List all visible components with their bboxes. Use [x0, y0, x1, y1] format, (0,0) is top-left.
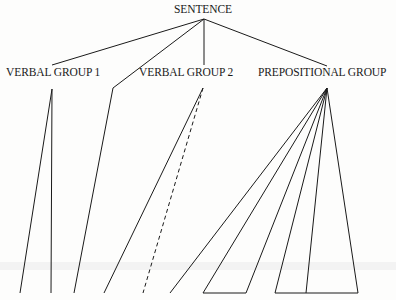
node-verbal-group-1: VERBAL GROUP 1	[6, 66, 100, 78]
branch-line	[327, 88, 358, 293]
branch-line	[52, 19, 204, 65]
branch-line	[204, 19, 327, 66]
branch-line	[170, 88, 327, 293]
branch-line	[275, 88, 327, 293]
branch-line	[20, 89, 52, 293]
node-prepositional-group: PREPOSITIONAL GROUP	[258, 66, 386, 78]
node-sentence: SENTENCE	[174, 3, 232, 15]
branch-line	[246, 88, 327, 293]
branch-line	[203, 88, 327, 293]
tree-lines	[0, 0, 396, 300]
branch-line	[306, 88, 327, 293]
node-verbal-group-2: VERBAL GROUP 2	[139, 66, 233, 78]
diagram-canvas: SENTENCE VERBAL GROUP 1 VERBAL GROUP 2 P…	[0, 0, 396, 300]
branch-line	[104, 88, 203, 293]
branch-line	[74, 88, 113, 293]
branch-line	[51, 89, 52, 293]
